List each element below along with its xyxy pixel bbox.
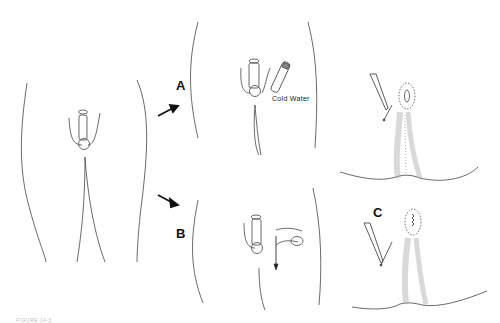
- perineal-view-top: [340, 74, 478, 180]
- cold-water-annotation: Cold Water: [272, 95, 310, 102]
- arrow-to-b: [158, 195, 178, 207]
- panel-label-c: C: [373, 205, 382, 220]
- panel-label-b: B: [176, 226, 185, 241]
- diagram-canvas: [0, 0, 500, 323]
- panel-b-figure: [193, 188, 321, 310]
- figure-caption: FIGURE 14-3: [16, 317, 52, 323]
- panel-label-a: A: [176, 78, 185, 93]
- main-figure: [21, 80, 146, 262]
- panel-c-figure: [352, 209, 487, 309]
- arrow-to-a: [158, 105, 178, 116]
- panel-a-figure: [191, 22, 317, 155]
